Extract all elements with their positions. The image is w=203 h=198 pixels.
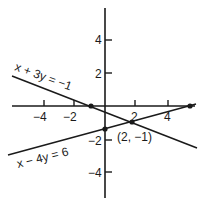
y-tick-label: −4 (88, 166, 102, 180)
intersection-label: (2, −1) (117, 130, 152, 144)
y-tick-label: −2 (88, 134, 102, 148)
point-y-intercept-line2 (102, 126, 107, 131)
point-intersection (129, 119, 134, 124)
x-ticks (44, 100, 168, 106)
x-tick-label: −4 (33, 110, 47, 124)
point-x-intercept-line1 (88, 103, 93, 108)
y-tick-label: 2 (95, 67, 102, 81)
point-x-intercept-line2 (187, 103, 192, 108)
y-tick-label: 4 (95, 33, 102, 47)
equation-label-line2: x − 4y = 6 (15, 144, 70, 170)
x-tick-label: −2 (63, 110, 77, 124)
coordinate-graph: −4 −2 2 4 4 2 −2 −4 x + 3y = −1 x − 4y =… (0, 0, 203, 198)
